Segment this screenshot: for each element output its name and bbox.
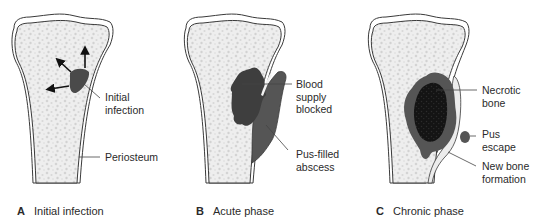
panel-b-acute-phase: Blood supply blocked Pus-filled abscess …: [180, 0, 360, 223]
label-pus-escape: Pus escape: [482, 128, 516, 153]
caption-text-b: Acute phase: [213, 205, 274, 217]
caption-letter-a: A: [17, 205, 25, 217]
caption-text-c: Chronic phase: [393, 205, 464, 217]
panel-a-initial-infection: Initial infection Periosteum AInitial in…: [0, 0, 180, 223]
label-pus-filled-abscess: Pus-filled abscess: [296, 148, 339, 173]
caption-letter-c: C: [376, 205, 384, 217]
label-necrotic-bone: Necrotic bone: [482, 84, 521, 109]
caption-b: BAcute phase: [196, 205, 274, 217]
caption-letter-b: B: [196, 205, 204, 217]
leader-line-new-bone: [448, 152, 476, 166]
caption-text-a: Initial infection: [34, 205, 104, 217]
label-blood-supply-blocked: Blood supply blocked: [296, 78, 332, 116]
pus-escape-icon: [460, 131, 470, 143]
bone-illustration-a: [0, 0, 180, 200]
label-initial-infection: Initial infection: [105, 91, 144, 116]
panel-c-chronic-phase: Necrotic bone Pus escape New bone format…: [360, 0, 535, 223]
caption-a: AInitial infection: [17, 205, 104, 217]
bone-shaft: [15, 20, 109, 183]
label-new-bone-formation: New bone formation: [482, 160, 529, 185]
caption-c: CChronic phase: [376, 205, 464, 217]
label-periosteum: Periosteum: [105, 151, 158, 164]
